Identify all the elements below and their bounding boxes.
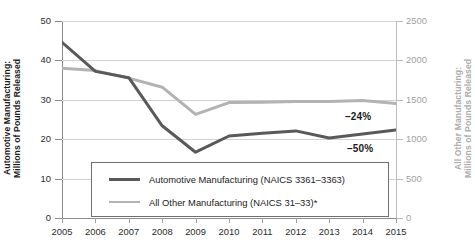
- x-axis-tick: [95, 218, 96, 223]
- left-axis-tick: [55, 60, 62, 61]
- x-axis-tick: [229, 218, 230, 223]
- right-axis-tick-label: 500: [406, 173, 446, 184]
- left-axis-tick-label: 10: [17, 173, 51, 184]
- legend: Automotive Manufacturing (NAICS 3361–336…: [91, 162, 389, 217]
- legend-item-automotive: Automotive Manufacturing (NAICS 3361–336…: [109, 172, 345, 186]
- right-axis-tick-label: 2000: [406, 54, 446, 65]
- left-axis-tick-label: 20: [17, 133, 51, 144]
- x-axis-tick: [62, 218, 63, 223]
- x-axis-tick: [396, 218, 397, 223]
- legend-swatch-all-other-icon: [109, 201, 140, 203]
- right-axis-title-line1: All Other Manufacturing:: [453, 18, 463, 218]
- right-axis-tick: [396, 21, 403, 22]
- annotation-automotive-change: –50%: [347, 143, 373, 154]
- left-axis-tick: [55, 218, 62, 219]
- right-axis-tick: [396, 218, 403, 219]
- left-axis-tick: [55, 100, 62, 101]
- right-axis-tick-label: 2500: [406, 15, 446, 26]
- x-axis-tick: [129, 218, 130, 223]
- left-axis-title-line1: Automotive Manufacturing:: [2, 18, 12, 218]
- x-axis-tick: [162, 218, 163, 223]
- right-axis-tick-label: 1500: [406, 94, 446, 105]
- right-axis-spine: [396, 21, 397, 219]
- x-axis-tick: [329, 218, 330, 223]
- x-axis-tick: [363, 218, 364, 223]
- right-axis-tick: [396, 179, 403, 180]
- legend-label-all-other: All Other Manufacturing (NAICS 31–33)*: [149, 197, 317, 208]
- left-axis-title-line2: Millions of Pounds Released: [12, 18, 22, 218]
- legend-item-all-other: All Other Manufacturing (NAICS 31–33)*: [109, 195, 317, 209]
- left-axis-tick-label: 50: [17, 15, 51, 26]
- right-axis-title-line2: Millions of Pounds Released: [464, 18, 474, 218]
- left-axis-tick-label: 0: [17, 212, 51, 223]
- right-axis-tick-label: 0: [406, 212, 446, 223]
- x-axis-tick-label: 2015: [376, 226, 416, 237]
- chart-figure: Automotive Manufacturing: Millions of Po…: [0, 0, 475, 252]
- series-line-automotive-manufacturing: [62, 42, 396, 152]
- annotation-all-other-change: –24%: [345, 111, 371, 122]
- x-axis-tick: [296, 218, 297, 223]
- legend-label-automotive: Automotive Manufacturing (NAICS 3361–336…: [149, 174, 345, 185]
- x-axis-tick: [262, 218, 263, 223]
- left-axis-tick-label: 30: [17, 94, 51, 105]
- right-axis-tick: [396, 60, 403, 61]
- right-axis-tick: [396, 100, 403, 101]
- x-axis-tick: [196, 218, 197, 223]
- legend-swatch-automotive-icon: [109, 178, 140, 181]
- left-axis-tick: [55, 139, 62, 140]
- right-axis-tick-label: 1000: [406, 133, 446, 144]
- left-axis-tick-label: 40: [17, 54, 51, 65]
- left-axis-tick: [55, 179, 62, 180]
- right-axis-title: All Other Manufacturing: Millions of Pou…: [453, 18, 474, 218]
- right-axis-tick: [396, 139, 403, 140]
- left-axis-tick: [55, 21, 62, 22]
- left-axis-title: Automotive Manufacturing: Millions of Po…: [2, 18, 23, 218]
